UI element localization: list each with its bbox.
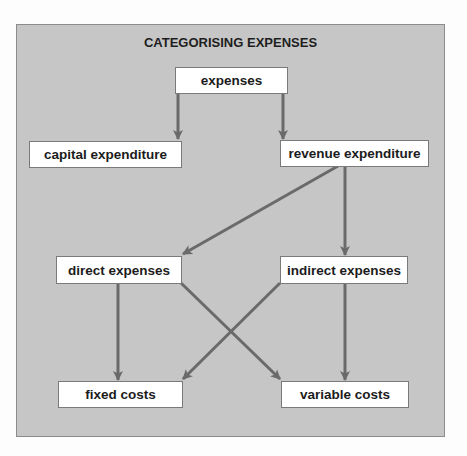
arrow-revenue-to-direct [183,166,338,254]
node-expenses-label: expenses [201,73,263,88]
node-capital-expenditure-label: capital expenditure [44,147,167,162]
node-capital-expenditure: capital expenditure [29,141,182,168]
node-fixed-costs: fixed costs [58,381,183,408]
node-direct-expenses-label: direct expenses [68,263,170,278]
node-variable-costs-label: variable costs [300,387,390,402]
node-revenue-expenditure-label: revenue expenditure [288,146,420,161]
node-indirect-expenses-label: indirect expenses [287,263,401,278]
node-expenses: expenses [175,67,288,94]
node-variable-costs: variable costs [281,381,409,408]
node-direct-expenses: direct expenses [56,256,182,284]
node-indirect-expenses: indirect expenses [280,256,408,284]
node-revenue-expenditure: revenue expenditure [280,140,429,167]
node-fixed-costs-label: fixed costs [85,387,156,402]
